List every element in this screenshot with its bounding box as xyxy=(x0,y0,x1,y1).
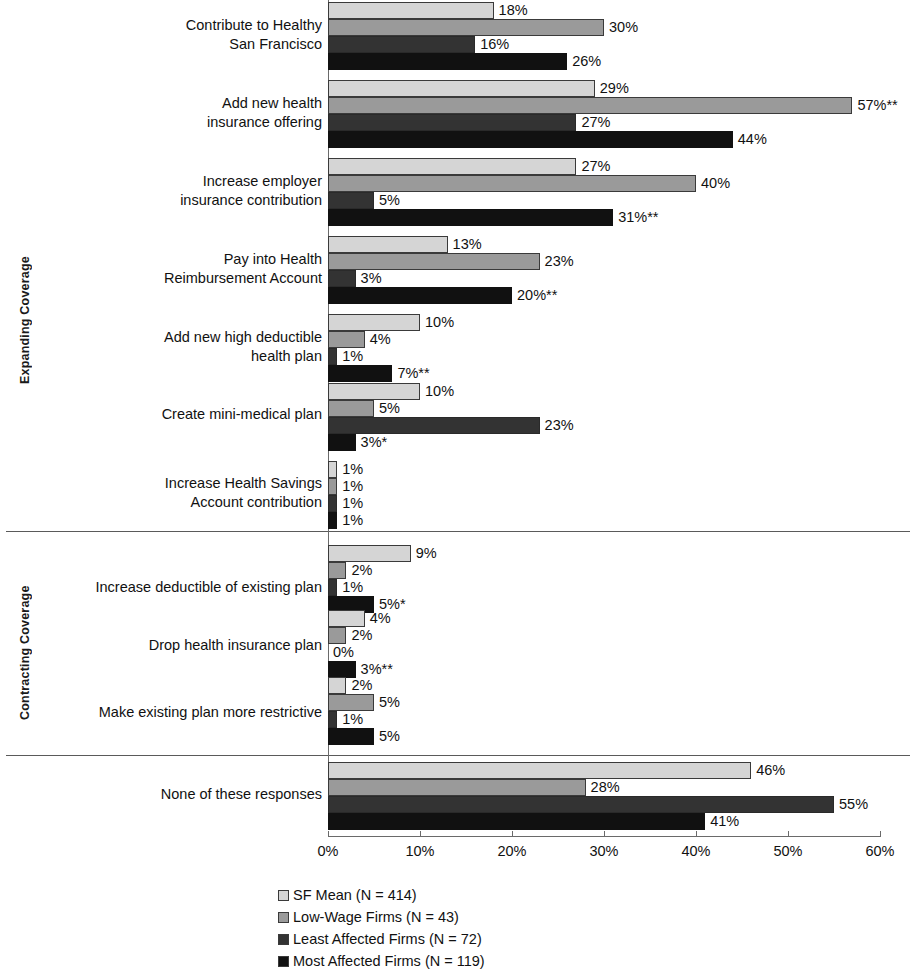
x-axis-tick-label: 0% xyxy=(298,843,358,859)
bar-value-label: 1% xyxy=(342,462,363,476)
x-axis-tick xyxy=(604,831,605,836)
bar-value-label: 5% xyxy=(379,695,400,709)
x-axis-tick-label: 10% xyxy=(390,843,450,859)
x-axis-tick-label: 50% xyxy=(758,843,818,859)
bar-value-label: 16% xyxy=(480,37,509,51)
bar-series-3-category-5 xyxy=(328,434,356,451)
bar-value-label: 23% xyxy=(545,254,574,268)
bar-series-0-category-8 xyxy=(328,610,365,627)
bar-value-label: 57%** xyxy=(857,98,897,112)
bar-series-2-category-1 xyxy=(328,114,576,131)
x-axis-tick-label: 20% xyxy=(482,843,542,859)
x-axis-tick xyxy=(788,831,789,836)
bar-series-2-category-9 xyxy=(328,711,337,728)
bar-value-label: 27% xyxy=(581,115,610,129)
bar-series-1-category-1 xyxy=(328,97,852,114)
bar-series-1-category-7 xyxy=(328,562,346,579)
bar-series-1-category-6 xyxy=(328,478,337,495)
x-axis-tick xyxy=(696,831,697,836)
legend-item[interactable]: SF Mean (N = 414) xyxy=(278,884,485,906)
bar-value-label: 31%** xyxy=(618,210,658,224)
bar-value-label: 1% xyxy=(342,712,363,726)
bar-value-label: 41% xyxy=(710,814,739,828)
bar-series-0-category-0 xyxy=(328,2,494,19)
bar-series-1-category-10 xyxy=(328,779,586,796)
horizontal-bar-chart: Expanding CoverageContracting CoverageCo… xyxy=(0,0,916,978)
bar-series-0-category-7 xyxy=(328,545,411,562)
bar-value-label: 30% xyxy=(609,20,638,34)
bar-series-2-category-7 xyxy=(328,579,337,596)
legend-label: Low-Wage Firms (N = 43) xyxy=(293,909,459,925)
bar-series-1-category-4 xyxy=(328,331,365,348)
bar-series-1-category-5 xyxy=(328,400,374,417)
bar-series-3-category-0 xyxy=(328,53,567,70)
bar-value-label: 29% xyxy=(600,81,629,95)
x-axis-line xyxy=(328,836,881,837)
legend-swatch-icon xyxy=(278,912,289,923)
bar-value-label: 46% xyxy=(756,763,785,777)
bar-series-2-category-3 xyxy=(328,270,356,287)
bar-series-2-category-4 xyxy=(328,348,337,365)
bar-value-label: 1% xyxy=(342,349,363,363)
bar-series-3-category-10 xyxy=(328,813,705,830)
bar-value-label: 5% xyxy=(379,401,400,415)
legend-swatch-icon xyxy=(278,934,289,945)
bar-value-label: 28% xyxy=(591,780,620,794)
group-separator-1 xyxy=(6,531,910,532)
group-label-contracting-coverage: Contracting Coverage xyxy=(18,560,32,745)
x-axis-tick xyxy=(420,831,421,836)
legend-item[interactable]: Most Affected Firms (N = 119) xyxy=(278,950,485,972)
bar-value-label: 40% xyxy=(701,176,730,190)
legend-item[interactable]: Low-Wage Firms (N = 43) xyxy=(278,906,485,928)
bar-value-label: 27% xyxy=(581,159,610,173)
bar-value-label: 2% xyxy=(351,563,372,577)
bar-value-label: 20%** xyxy=(517,288,557,302)
category-label: None of these responses xyxy=(60,785,322,804)
bar-value-label: 5%* xyxy=(379,597,406,611)
bar-value-label: 18% xyxy=(499,3,528,17)
bar-value-label: 55% xyxy=(839,797,868,811)
bar-value-label: 1% xyxy=(342,580,363,594)
bar-value-label: 3%* xyxy=(361,435,388,449)
bar-value-label: 13% xyxy=(453,237,482,251)
category-label: Drop health insurance plan xyxy=(60,636,322,655)
bar-series-3-category-8 xyxy=(328,661,356,678)
bar-series-0-category-5 xyxy=(328,383,420,400)
bar-series-0-category-6 xyxy=(328,461,337,478)
legend-swatch-icon xyxy=(278,956,289,967)
bar-value-label: 5% xyxy=(379,729,400,743)
bar-value-label: 2% xyxy=(351,678,372,692)
bar-series-3-category-3 xyxy=(328,287,512,304)
bar-value-label: 44% xyxy=(738,132,767,146)
bar-series-2-category-6 xyxy=(328,495,337,512)
group-label-expanding-coverage: Expanding Coverage xyxy=(18,170,32,470)
legend-swatch-icon xyxy=(278,890,289,901)
category-label: Increase deductible of existing plan xyxy=(60,578,322,597)
bar-series-1-category-2 xyxy=(328,175,696,192)
category-label: Add new health insurance offering xyxy=(60,94,322,132)
bar-series-0-category-10 xyxy=(328,762,751,779)
bar-series-1-category-8 xyxy=(328,627,346,644)
bar-series-2-category-5 xyxy=(328,417,540,434)
category-label: Increase employer insurance contribution xyxy=(60,172,322,210)
legend-item[interactable]: Least Affected Firms (N = 72) xyxy=(278,928,485,950)
category-label: Pay into Health Reimbursement Account xyxy=(60,250,322,288)
bar-value-label: 4% xyxy=(370,611,391,625)
category-label: Add new high deductible health plan xyxy=(60,328,322,366)
x-axis-tick xyxy=(880,831,881,836)
x-axis-tick-label: 60% xyxy=(850,843,910,859)
bar-value-label: 23% xyxy=(545,418,574,432)
x-axis-tick xyxy=(328,831,329,836)
bar-series-0-category-9 xyxy=(328,677,346,694)
bar-series-3-category-1 xyxy=(328,131,733,148)
category-label: Make existing plan more restrictive xyxy=(60,703,322,722)
bar-series-3-category-6 xyxy=(328,512,337,529)
category-label: Increase Health Savings Account contribu… xyxy=(60,474,322,512)
bar-series-2-category-2 xyxy=(328,192,374,209)
bar-value-label: 1% xyxy=(342,479,363,493)
bar-series-0-category-2 xyxy=(328,158,576,175)
legend-label: Most Affected Firms (N = 119) xyxy=(293,953,485,969)
bar-value-label: 10% xyxy=(425,384,454,398)
legend-label: SF Mean (N = 414) xyxy=(293,887,417,903)
bar-value-label: 9% xyxy=(416,546,437,560)
